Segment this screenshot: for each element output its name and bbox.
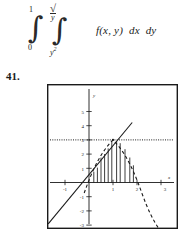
intersection-point-marker [112,139,114,141]
ytick--3: -3 [80,223,85,228]
integral-sign: ∫ [52,15,68,45]
plot-frame [48,85,178,229]
problem-number: 41. [6,70,20,82]
y-axis-tick-labels: 5 4 3 2 1 -1 -2 -3 [80,110,85,229]
integrand-function: f(x, y) [96,24,123,36]
ytick--1: -1 [80,195,85,200]
inner-integral-lower-limit: y2 [50,46,57,57]
differential-dy: dy [146,24,157,36]
region-of-integration-plot: -1 1 2 3 x 5 4 3 2 1 [47,84,178,229]
exercise-page: 1 ∫ 0 √y ∫ y2 f(x, y) dx dy 41. [0,0,187,237]
differential-dx: dx [129,24,140,36]
graph-figure: -1 1 2 3 x 5 4 3 2 1 [47,84,178,229]
ytick--2: -2 [80,209,85,214]
xtick--1: -1 [63,187,68,192]
inner-integral-lower-exponent: 2 [54,46,57,52]
double-integral-expression: 1 ∫ 0 √y ∫ y2 f(x, y) dx dy [24,2,184,56]
integrand-and-differentials: f(x, y) dx dy [96,24,156,36]
integral-sign: ∫ [28,13,44,43]
outer-integral-lower-limit: 0 [28,44,32,52]
